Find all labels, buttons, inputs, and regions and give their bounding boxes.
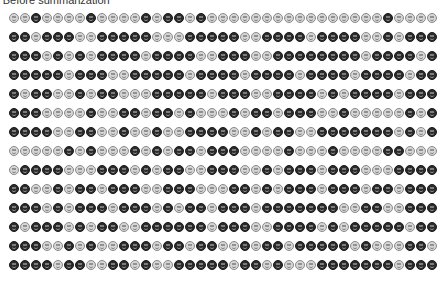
- dark-smiley-icon: [240, 184, 250, 194]
- light-smiley-icon: [372, 241, 382, 251]
- light-smiley-icon: [64, 127, 74, 137]
- light-smiley-icon: [240, 70, 250, 80]
- dark-smiley-icon: [383, 70, 393, 80]
- dark-smiley-icon: [416, 222, 426, 232]
- dark-smiley-icon: [284, 89, 294, 99]
- dark-smiley-icon: [86, 203, 96, 213]
- dark-smiley-icon: [9, 184, 19, 194]
- light-smiley-icon: [152, 13, 162, 23]
- dark-smiley-icon: [174, 70, 184, 80]
- dark-smiley-icon: [141, 32, 151, 42]
- light-smiley-icon: [163, 32, 173, 42]
- dark-smiley-icon: [163, 13, 173, 23]
- dark-smiley-icon: [328, 32, 338, 42]
- light-smiley-icon: [174, 127, 184, 137]
- dark-smiley-icon: [284, 222, 294, 232]
- light-smiley-icon: [20, 89, 30, 99]
- dark-smiley-icon: [196, 32, 206, 42]
- dark-smiley-icon: [75, 51, 85, 61]
- light-smiley-icon: [416, 13, 426, 23]
- dark-smiley-icon: [240, 89, 250, 99]
- light-smiley-icon: [361, 108, 371, 118]
- light-smiley-icon: [196, 108, 206, 118]
- dark-smiley-icon: [229, 165, 239, 175]
- dark-smiley-icon: [20, 108, 30, 118]
- dark-smiley-icon: [306, 51, 316, 61]
- dark-smiley-icon: [350, 260, 360, 270]
- dark-smiley-icon: [185, 127, 195, 137]
- light-smiley-icon: [394, 127, 404, 137]
- dark-smiley-icon: [240, 241, 250, 251]
- light-smiley-icon: [130, 165, 140, 175]
- dark-smiley-icon: [229, 51, 239, 61]
- dark-smiley-icon: [31, 108, 41, 118]
- dark-smiley-icon: [251, 260, 261, 270]
- dark-smiley-icon: [141, 241, 151, 251]
- light-smiley-icon: [240, 108, 250, 118]
- dark-smiley-icon: [20, 203, 30, 213]
- dark-smiley-icon: [9, 127, 19, 137]
- smiley-row: [9, 141, 438, 160]
- light-smiley-icon: [284, 13, 294, 23]
- dark-smiley-icon: [383, 184, 393, 194]
- dark-smiley-icon: [405, 260, 415, 270]
- light-smiley-icon: [31, 32, 41, 42]
- dark-smiley-icon: [229, 222, 239, 232]
- dark-smiley-icon: [295, 32, 305, 42]
- dark-smiley-icon: [185, 146, 195, 156]
- dark-smiley-icon: [427, 108, 437, 118]
- light-smiley-icon: [328, 108, 338, 118]
- light-smiley-icon: [350, 70, 360, 80]
- dark-smiley-icon: [20, 32, 30, 42]
- dark-smiley-icon: [20, 165, 30, 175]
- dark-smiley-icon: [97, 32, 107, 42]
- dark-smiley-icon: [9, 51, 19, 61]
- dark-smiley-icon: [328, 222, 338, 232]
- light-smiley-icon: [306, 13, 316, 23]
- dark-smiley-icon: [383, 13, 393, 23]
- dark-smiley-icon: [130, 108, 140, 118]
- light-smiley-icon: [295, 70, 305, 80]
- dark-smiley-icon: [185, 222, 195, 232]
- light-smiley-icon: [152, 203, 162, 213]
- dark-smiley-icon: [218, 127, 228, 137]
- light-smiley-icon: [64, 13, 74, 23]
- dark-smiley-icon: [405, 127, 415, 137]
- light-smiley-icon: [130, 89, 140, 99]
- light-smiley-icon: [152, 241, 162, 251]
- dark-smiley-icon: [42, 260, 52, 270]
- dark-smiley-icon: [339, 108, 349, 118]
- light-smiley-icon: [427, 146, 437, 156]
- light-smiley-icon: [251, 184, 261, 194]
- dark-smiley-icon: [20, 127, 30, 137]
- light-smiley-icon: [42, 51, 52, 61]
- light-smiley-icon: [306, 260, 316, 270]
- dark-smiley-icon: [86, 184, 96, 194]
- light-smiley-icon: [262, 89, 272, 99]
- dark-smiley-icon: [295, 108, 305, 118]
- dark-smiley-icon: [163, 222, 173, 232]
- dark-smiley-icon: [284, 70, 294, 80]
- dark-smiley-icon: [163, 70, 173, 80]
- dark-smiley-icon: [317, 32, 327, 42]
- light-smiley-icon: [97, 184, 107, 194]
- dark-smiley-icon: [174, 13, 184, 23]
- dark-smiley-icon: [97, 51, 107, 61]
- dark-smiley-icon: [251, 127, 261, 137]
- dark-smiley-icon: [174, 51, 184, 61]
- dark-smiley-icon: [152, 127, 162, 137]
- light-smiley-icon: [416, 51, 426, 61]
- dark-smiley-icon: [53, 51, 63, 61]
- dark-smiley-icon: [141, 203, 151, 213]
- dark-smiley-icon: [273, 32, 283, 42]
- dark-smiley-icon: [174, 146, 184, 156]
- light-smiley-icon: [130, 127, 140, 137]
- dark-smiley-icon: [251, 108, 261, 118]
- dark-smiley-icon: [141, 222, 151, 232]
- dark-smiley-icon: [97, 165, 107, 175]
- dark-smiley-icon: [86, 70, 96, 80]
- light-smiley-icon: [394, 184, 404, 194]
- dark-smiley-icon: [207, 32, 217, 42]
- dark-smiley-icon: [251, 70, 261, 80]
- light-smiley-icon: [284, 241, 294, 251]
